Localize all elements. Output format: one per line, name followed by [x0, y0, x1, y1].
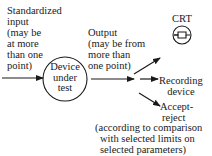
input-label-line: at more — [7, 38, 62, 49]
accept-reject-arrow — [139, 93, 160, 106]
device-label-line: test — [45, 83, 85, 94]
note-line: with selected limits on — [95, 133, 202, 144]
input-label-line: input — [7, 16, 62, 27]
note-line: selected parameters) — [95, 144, 202, 155]
input-label-line: (may be — [7, 27, 62, 38]
output-label-line: one point) — [88, 60, 145, 71]
device-label: Device under test — [45, 62, 85, 94]
input-label-line: Standardized — [7, 5, 62, 16]
output-label-line: more than — [88, 49, 145, 60]
accept-label-line: Accept- — [160, 101, 193, 112]
note-line: (according to comparison — [95, 122, 202, 133]
crt-label: CRT — [172, 13, 192, 24]
recording-device-label: Recording device — [159, 75, 203, 97]
input-label-line: than one — [7, 49, 62, 60]
device-label-line: Device — [45, 62, 85, 73]
output-label-line: Output — [88, 27, 145, 38]
recording-label-line: Recording — [159, 75, 203, 86]
output-label-line: (may be from — [88, 38, 145, 49]
recording-label-line: device — [159, 86, 203, 97]
accept-reject-label: Accept- reject — [160, 101, 193, 123]
accept-reject-note: (according to comparison with selected l… — [95, 122, 202, 155]
output-label: Output (may be from more than one point) — [88, 27, 145, 71]
crt-display-icon — [173, 26, 191, 44]
